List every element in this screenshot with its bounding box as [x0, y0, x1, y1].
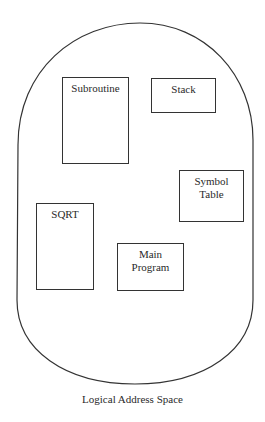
segment-sqrt-label: SQRT	[37, 208, 93, 221]
segment-symbol-table-label: Symbol Table	[180, 175, 243, 201]
segment-stack: Stack	[151, 78, 216, 113]
segment-subroutine-label: Subroutine	[63, 82, 128, 95]
segment-symbol-table: Symbol Table	[179, 170, 244, 222]
diagram-caption: Logical Address Space	[0, 393, 265, 405]
segment-subroutine: Subroutine	[62, 77, 129, 164]
segment-stack-label: Stack	[152, 83, 215, 96]
segment-main-program: Main Program	[117, 243, 184, 291]
segment-sqrt: SQRT	[36, 203, 94, 290]
segment-main-program-label: Main Program	[118, 248, 183, 274]
